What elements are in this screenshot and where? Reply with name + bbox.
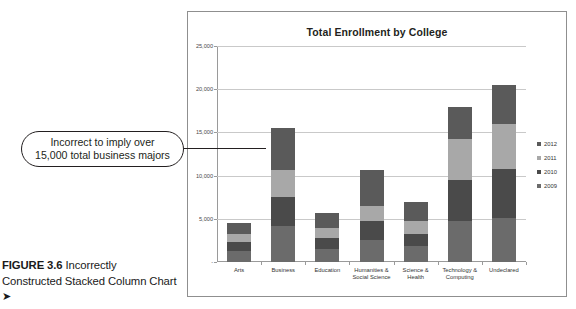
x-axis-category-label: Humanities & Social Science	[348, 267, 396, 282]
legend-item[interactable]: 2011	[537, 155, 557, 161]
x-tick-mark	[305, 262, 306, 265]
x-axis-category-label: Education	[303, 267, 351, 274]
bar-segment[interactable]	[448, 221, 472, 262]
bar-segment[interactable]	[227, 234, 251, 243]
x-axis-category-label: Science & Health	[392, 267, 440, 282]
y-tick-label: -	[211, 259, 213, 265]
y-axis-line	[217, 46, 218, 262]
x-axis-category-label: Undeclared	[480, 267, 528, 274]
gridline	[217, 46, 526, 47]
bar-column[interactable]: Technology & Computing	[448, 107, 472, 262]
y-tick-label: 20,000	[196, 86, 213, 92]
bar-column[interactable]: Arts	[227, 223, 251, 262]
y-tick-mark	[214, 46, 217, 47]
callout-text: Incorrect to imply over 15,000 total bus…	[27, 136, 178, 163]
figure-arrow-icon: ➤	[2, 290, 11, 302]
bar-column[interactable]: Humanities & Social Science	[360, 170, 384, 262]
legend-swatch-icon	[537, 170, 541, 174]
legend-label: 2012	[544, 141, 557, 147]
legend-item[interactable]: 2009	[537, 183, 557, 189]
bar-segment[interactable]	[315, 238, 339, 249]
legend-item[interactable]: 2010	[537, 169, 557, 175]
bar-segment[interactable]	[360, 170, 384, 205]
bar-segment[interactable]	[315, 213, 339, 229]
bar-segment[interactable]	[404, 234, 428, 247]
legend-label: 2011	[544, 155, 556, 161]
x-axis-category-label: Business	[259, 267, 307, 274]
x-tick-mark	[261, 262, 262, 265]
bar-column[interactable]: Undeclared	[492, 85, 516, 262]
y-tick-mark	[214, 262, 217, 263]
bar-segment[interactable]	[315, 249, 339, 262]
figure-caption: FIGURE 3.6 Incorrectly Constructed Stack…	[2, 258, 178, 305]
bar-segment[interactable]	[404, 221, 428, 234]
legend-swatch-icon	[537, 156, 541, 160]
bar-segment[interactable]	[271, 197, 295, 226]
x-tick-mark	[349, 262, 350, 265]
gridline	[217, 89, 526, 90]
bar-segment[interactable]	[227, 242, 251, 251]
bar-segment[interactable]	[360, 206, 384, 221]
bar-segment[interactable]	[492, 124, 516, 169]
plot-area: -5,00010,00015,00020,00025,000 ArtsBusin…	[217, 46, 526, 262]
legend-item[interactable]: 2012	[537, 141, 557, 147]
bar-segment[interactable]	[227, 223, 251, 233]
callout-bubble: Incorrect to imply over 15,000 total bus…	[21, 131, 184, 167]
x-tick-mark	[526, 262, 527, 265]
legend-label: 2010	[544, 169, 557, 175]
callout-leader-line	[184, 148, 266, 149]
bar-column[interactable]: Business	[271, 128, 295, 262]
bar-segment[interactable]	[448, 107, 472, 140]
y-tick-label: 10,000	[196, 173, 213, 179]
y-tick-mark	[214, 219, 217, 220]
y-tick-mark	[214, 176, 217, 177]
chart-title: Total Enrollment by College	[188, 26, 566, 38]
bar-segment[interactable]	[404, 246, 428, 262]
bar-column[interactable]: Science & Health	[404, 202, 428, 262]
x-tick-mark	[438, 262, 439, 265]
bar-segment[interactable]	[492, 218, 516, 262]
y-tick-mark	[214, 89, 217, 90]
legend-swatch-icon	[537, 142, 541, 146]
x-tick-mark	[482, 262, 483, 265]
y-tick-mark	[214, 132, 217, 133]
y-tick-label: 25,000	[196, 43, 213, 49]
bar-segment[interactable]	[448, 180, 472, 221]
gridline	[217, 132, 526, 133]
x-axis-category-label: Arts	[215, 267, 263, 274]
bar-segment[interactable]	[271, 170, 295, 198]
bar-segment[interactable]	[360, 240, 384, 262]
bar-segment[interactable]	[271, 128, 295, 169]
legend-swatch-icon	[537, 184, 541, 188]
bar-column[interactable]: Education	[315, 213, 339, 262]
bar-segment[interactable]	[227, 251, 251, 262]
bar-segment[interactable]	[315, 228, 339, 238]
bar-segment[interactable]	[271, 226, 295, 262]
bar-segment[interactable]	[404, 202, 428, 221]
x-tick-mark	[394, 262, 395, 265]
bar-segment[interactable]	[492, 169, 516, 218]
y-tick-label: 15,000	[196, 129, 213, 135]
y-tick-label: 5,000	[199, 216, 213, 222]
bar-segment[interactable]	[492, 85, 516, 124]
chart-frame: Total Enrollment by College -5,00010,000…	[187, 11, 567, 297]
x-axis-category-label: Technology & Computing	[436, 267, 484, 282]
chart-legend: 2012201120102009	[537, 141, 557, 189]
bar-segment[interactable]	[448, 139, 472, 180]
bar-segment[interactable]	[360, 221, 384, 241]
figure-caption-label: FIGURE 3.6	[2, 259, 63, 271]
legend-label: 2009	[544, 183, 557, 189]
